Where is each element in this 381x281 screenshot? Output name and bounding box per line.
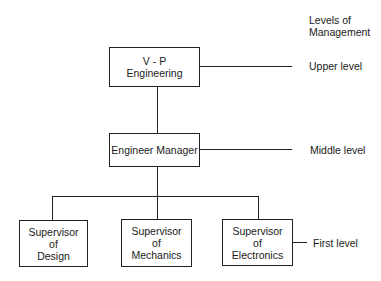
node-supervisor-mechanics: Supervisor of Mechanics [121,219,192,267]
connector-bus-mechanics [157,196,158,219]
node-supervisor-electronics: Supervisor of Electronics [222,219,293,266]
level-label-first: First level [313,237,358,249]
node-vp-line2: Engineering [126,67,182,79]
connector-first-level [293,242,307,243]
levels-heading-line2: Management [309,26,370,38]
connector-vp-manager [157,87,158,133]
node-vp-engineering: V - P Engineering [109,47,200,87]
node-design-line1: Supervisor [28,226,78,238]
node-electronics-line1: Supervisor [232,225,282,237]
node-design-line2: of [49,238,58,250]
connector-manager-bus [157,167,158,196]
connector-bus-design [52,196,53,220]
level-label-middle: Middle level [310,144,365,156]
level-label-upper: Upper level [309,60,362,72]
node-supervisor-design: Supervisor of Design [19,220,88,267]
connector-supervisor-bus [52,196,259,197]
node-engineer-manager: Engineer Manager [109,133,200,167]
levels-of-management-heading: Levels of Management [309,14,370,38]
connector-middle-level [200,149,292,150]
node-mechanics-line3: Mechanics [131,249,181,261]
node-manager-line1: Engineer Manager [111,144,197,156]
node-mechanics-line2: of [152,237,161,249]
node-electronics-line2: of [253,237,262,249]
node-electronics-line3: Electronics [232,249,283,261]
node-mechanics-line1: Supervisor [131,225,181,237]
node-design-line3: Design [37,250,70,262]
connector-upper-level [200,66,292,67]
connector-bus-electronics [258,196,259,219]
levels-heading-line1: Levels of [309,14,370,26]
node-vp-line1: V - P [143,55,166,67]
